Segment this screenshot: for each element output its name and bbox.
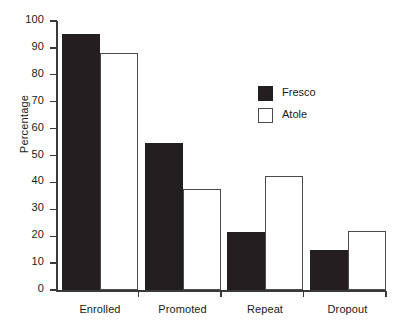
y-tick-10 — [50, 262, 57, 263]
bar-promoted-atole — [183, 189, 221, 290]
x-tick-boundary-3 — [303, 291, 304, 297]
legend-swatch-fresco-icon — [258, 86, 273, 101]
y-tick-label-60: 60 — [0, 121, 44, 133]
y-tick-label-0: 0 — [0, 282, 44, 294]
y-tick-label-20: 20 — [0, 228, 44, 240]
bar-repeat-fresco — [227, 232, 265, 290]
legend-label-atole: Atole — [282, 108, 307, 120]
y-tick-label-30: 30 — [0, 201, 44, 213]
bar-enrolled-atole — [100, 53, 138, 290]
legend-swatch-atole-icon — [258, 108, 273, 123]
x-category-label-dropout: Dropout — [298, 303, 398, 315]
x-tick-boundary-end — [385, 291, 386, 297]
y-tick-label-40: 40 — [0, 174, 44, 186]
y-tick-60 — [50, 128, 57, 129]
y-tick-label-100: 100 — [0, 13, 44, 25]
y-tick-label-80: 80 — [0, 67, 44, 79]
y-tick-40 — [50, 182, 57, 183]
bar-chart: Percentage 0102030405060708090100 Enroll… — [0, 0, 412, 336]
y-tick-label-10: 10 — [0, 255, 44, 267]
bar-dropout-fresco — [310, 250, 348, 290]
y-tick-label-70: 70 — [0, 94, 44, 106]
bar-dropout-atole — [348, 231, 386, 290]
bar-enrolled-fresco — [62, 34, 100, 290]
y-tick-20 — [50, 236, 57, 237]
bar-promoted-fresco — [145, 143, 183, 290]
bar-repeat-atole — [265, 176, 303, 290]
y-tick-label-90: 90 — [0, 40, 44, 52]
legend-label-fresco: Fresco — [282, 86, 316, 98]
y-tick-100 — [50, 20, 57, 21]
y-tick-70 — [50, 101, 57, 102]
y-tick-90 — [50, 47, 57, 48]
y-tick-50 — [50, 155, 57, 156]
y-tick-label-50: 50 — [0, 148, 44, 160]
x-tick-boundary-2 — [220, 291, 221, 297]
y-tick-30 — [50, 209, 57, 210]
x-tick-boundary-1 — [138, 291, 139, 297]
y-tick-80 — [50, 74, 57, 75]
